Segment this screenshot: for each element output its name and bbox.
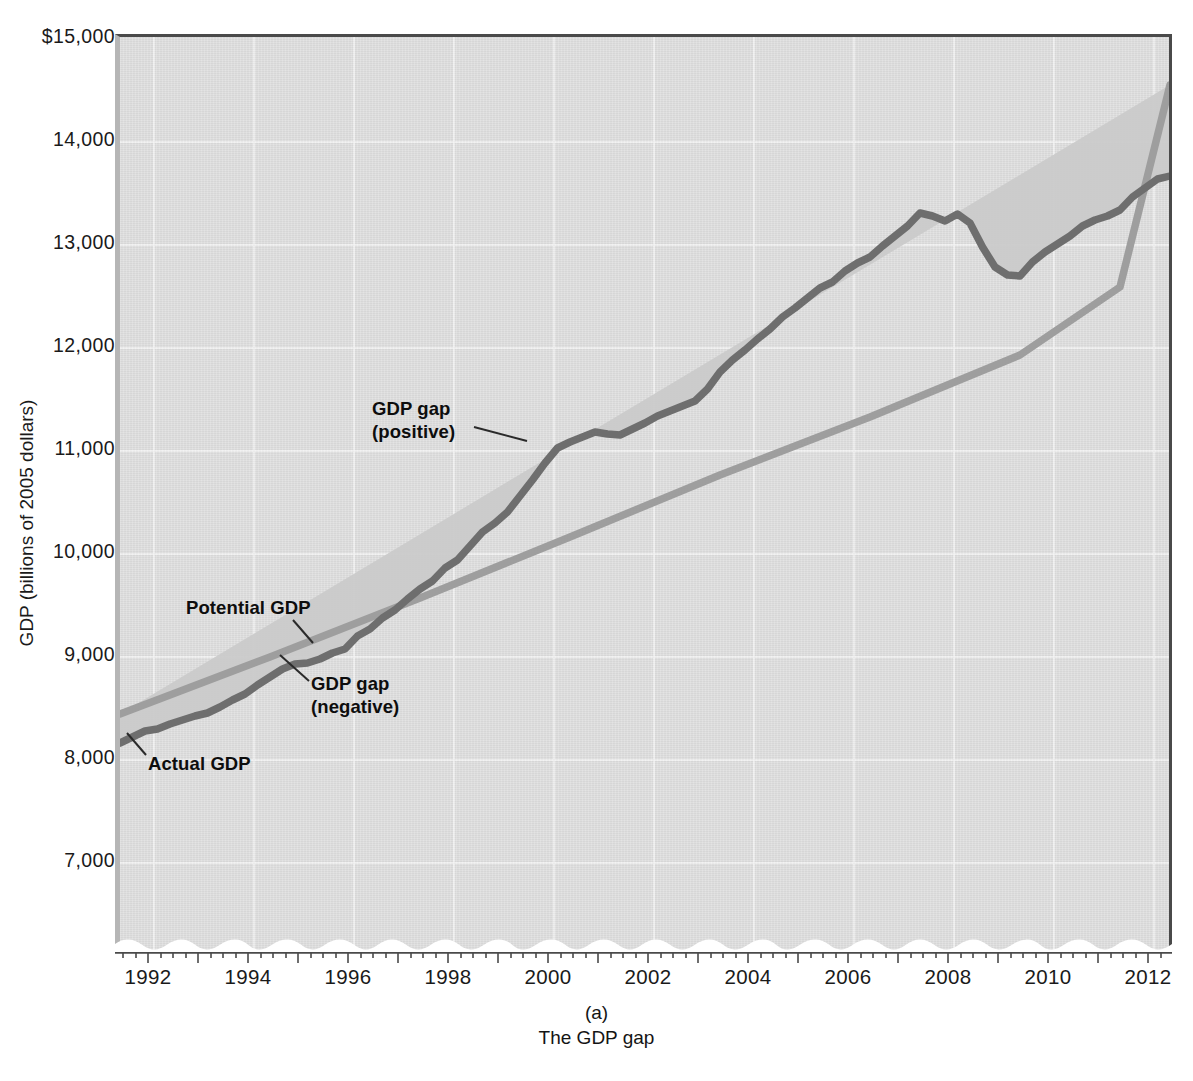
annotation-line-2: (positive): [372, 420, 455, 443]
x-tick-label: 1998: [393, 965, 503, 989]
figure-caption-label: (a): [0, 1002, 1193, 1024]
x-tick-label: 2000: [493, 965, 603, 989]
annotation-line-1: GDP gap: [372, 398, 451, 419]
annotation-potential-gdp: Potential GDP: [186, 596, 311, 619]
x-tick-label: 2004: [693, 965, 803, 989]
annotation-line-1: Potential GDP: [186, 597, 311, 618]
annotation-gdp-gap-negative: GDP gap (negative): [311, 672, 399, 719]
x-axis-ticks: [115, 952, 1172, 966]
gdp-gap-fill: [120, 85, 1170, 743]
x-tick-label: 2002: [593, 965, 703, 989]
y-tick-label: $15,000: [7, 25, 115, 48]
plot-area: [115, 34, 1172, 955]
annotation-gdp-gap-positive: GDP gap (positive): [372, 397, 455, 444]
x-tick-label: 2012: [1093, 965, 1193, 989]
y-tick-label: 7,000: [7, 849, 115, 872]
y-axis: $15,000 14,000 13,000 12,000 11,000 10,0…: [0, 0, 115, 1081]
x-tick-label: 1996: [293, 965, 403, 989]
x-tick-label: 1992: [93, 965, 203, 989]
y-tick-label: 14,000: [7, 128, 115, 151]
annotation-line-1: Actual GDP: [148, 753, 251, 774]
annotation-line-1: GDP gap: [311, 673, 390, 694]
x-tick-label: 2008: [893, 965, 1003, 989]
annotation-actual-gdp: Actual GDP: [148, 752, 251, 775]
y-tick-label: 8,000: [7, 746, 115, 769]
y-tick-label: 12,000: [7, 334, 115, 357]
x-tick-label: 1994: [193, 965, 303, 989]
figure-caption-text: The GDP gap: [0, 1027, 1193, 1049]
y-tick-label: 13,000: [7, 231, 115, 254]
x-tick-label: 2006: [793, 965, 903, 989]
y-axis-title: GDP (billions of 2005 dollars): [16, 363, 38, 683]
chart-series-group: [120, 37, 1172, 955]
figure-gdp-gap: the price level of economic and output g…: [0, 0, 1193, 1081]
annotation-line-2: (negative): [311, 695, 399, 718]
x-tick-label: 2010: [993, 965, 1103, 989]
